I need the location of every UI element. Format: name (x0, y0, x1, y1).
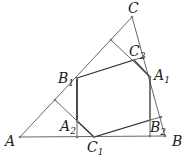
triangle-abc (20, 17, 165, 137)
label-b1: B1 (57, 70, 74, 88)
label-c: C (128, 0, 139, 16)
geometry-diagram: A B C B1 A1 C1 A2 B2 C2 (0, 0, 187, 163)
hexagon (77, 60, 150, 137)
label-a1: A1 (152, 67, 170, 85)
label-c1: C1 (87, 139, 103, 157)
label-b2: B2 (149, 119, 166, 137)
label-b: B (171, 133, 182, 149)
label-c2: C2 (129, 43, 146, 61)
label-a2: A2 (58, 118, 76, 136)
vertex-dots (19, 16, 167, 139)
label-a: A (3, 133, 15, 149)
